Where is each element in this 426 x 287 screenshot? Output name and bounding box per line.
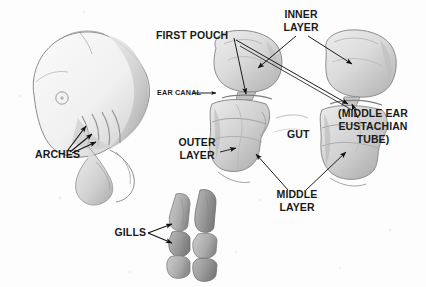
label-eustachian-line3: TUBE): [325, 134, 421, 145]
label-eustachian-line2: EUSTACHIAN: [325, 121, 421, 132]
label-arches: ARCHES: [6, 149, 80, 160]
label-inner-layer-line1: INNER: [265, 9, 337, 20]
label-middle-layer-line1: MIDDLE: [261, 189, 333, 200]
label-gut: GUT: [287, 129, 309, 140]
label-ear-canal: EAR CANAL: [157, 89, 201, 97]
label-outer-layer-line2: LAYER: [172, 150, 222, 161]
label-first-pouch: FIRST POUCH: [156, 30, 228, 41]
label-middle-layer-line2: LAYER: [261, 202, 333, 213]
diagram-figure: ARCHES GILLS FIRST POUCH EAR CANAL INNER…: [0, 0, 426, 287]
label-inner-layer-line2: LAYER: [265, 22, 337, 33]
label-gills: GILLS: [78, 227, 146, 238]
label-outer-layer-line1: OUTER: [172, 137, 222, 148]
label-eustachian-line1: (MIDDLE EAR: [325, 108, 421, 119]
